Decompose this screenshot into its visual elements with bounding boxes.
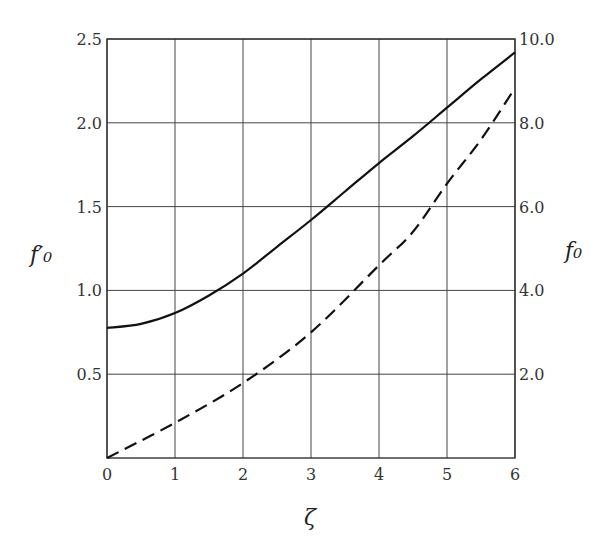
y-tick-label-right: 10.0 [519, 30, 555, 49]
y-tick-label-left: 1.5 [77, 198, 102, 217]
y-axis-label-left: f′₀ [28, 242, 52, 267]
y-tick-label-right: 6.0 [519, 198, 544, 217]
x-tick-label: 4 [374, 465, 384, 484]
x-tick-label: 5 [442, 465, 452, 484]
x-tick-label: 2 [238, 465, 248, 484]
y-tick-labels-right: 2.04.06.08.010.0 [519, 30, 555, 384]
y-tick-label-left: 0.5 [77, 365, 102, 384]
y-tick-label-right: 8.0 [519, 114, 544, 133]
y-tick-label-left: 1.0 [77, 281, 102, 300]
y-tick-label-right: 4.0 [519, 281, 544, 300]
x-tick-label: 0 [102, 465, 112, 484]
x-tick-labels: 0123456 [102, 465, 520, 484]
chart: 0123456 0.51.01.52.02.5 2.04.06.08.010.0… [0, 0, 614, 549]
y-axis-label-right: f₀ [563, 238, 582, 263]
y-tick-label-left: 2.0 [77, 114, 102, 133]
y-tick-labels-left: 0.51.01.52.02.5 [77, 30, 102, 384]
x-tick-label: 6 [510, 465, 520, 484]
x-tick-label: 3 [306, 465, 316, 484]
y-tick-label-left: 2.5 [77, 30, 102, 49]
x-tick-label: 1 [170, 465, 180, 484]
y-tick-label-right: 2.0 [519, 365, 544, 384]
x-axis-label: ζ [304, 505, 318, 530]
